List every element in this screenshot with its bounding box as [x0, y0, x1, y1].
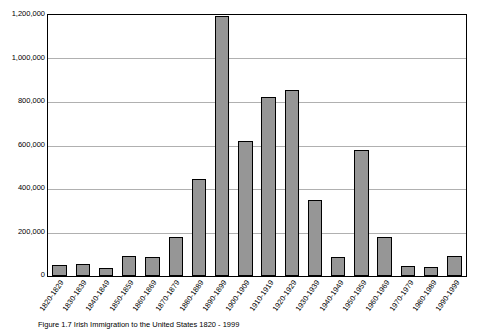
bar-slot [118, 15, 141, 276]
y-axis-tick-label: 1,200,000 [0, 10, 45, 18]
y-axis-tick-label: 400,000 [0, 184, 45, 192]
bar [52, 265, 66, 276]
bar-series [48, 15, 466, 276]
bar-slot [443, 15, 466, 276]
bar [331, 257, 345, 276]
bar [447, 256, 461, 276]
bar-slot [303, 15, 326, 276]
bar-slot [94, 15, 117, 276]
y-axis-tick-label: 200,000 [0, 228, 45, 236]
bar-slot [48, 15, 71, 276]
bar-slot [141, 15, 164, 276]
bar [377, 237, 391, 276]
bar-slot [350, 15, 373, 276]
bar [145, 257, 159, 276]
x-axis: 1820-18291830-18391840-18491850-18591860… [47, 277, 467, 321]
bar [401, 266, 415, 276]
plot-area [47, 14, 467, 277]
bar [261, 97, 275, 276]
bar-slot [396, 15, 419, 276]
bar [424, 267, 438, 276]
bar [215, 16, 229, 276]
x-axis-slot: 1990-1999 [444, 277, 467, 321]
y-axis-tick-label: 800,000 [0, 97, 45, 105]
bar [99, 268, 113, 276]
bar-chart: 1,200,0001,000,000800,000600,000400,0002… [0, 0, 487, 331]
bar [76, 264, 90, 276]
y-axis-tick-label: 1,000,000 [0, 54, 45, 62]
bar-slot [211, 15, 234, 276]
bar-slot [257, 15, 280, 276]
bar [285, 90, 299, 276]
bar-slot [373, 15, 396, 276]
y-axis: 1,200,0001,000,000800,000600,000400,0002… [0, 0, 45, 280]
bar [308, 200, 322, 276]
bar-slot [71, 15, 94, 276]
bar-slot [327, 15, 350, 276]
bar-slot [164, 15, 187, 276]
y-axis-tick-label: 0 [0, 271, 45, 279]
bar-slot [234, 15, 257, 276]
bar [354, 150, 368, 276]
y-axis-tick-label: 600,000 [0, 141, 45, 149]
bar [122, 256, 136, 276]
bar-slot [187, 15, 210, 276]
bar [169, 237, 183, 276]
figure-caption: Figure 1.7 Irish Immigration to the Unit… [38, 320, 239, 329]
bar-slot [280, 15, 303, 276]
bar [238, 141, 252, 276]
bar-slot [420, 15, 443, 276]
bar [192, 179, 206, 276]
